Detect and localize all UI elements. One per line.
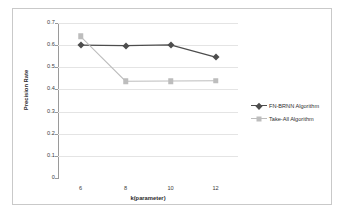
chart-figure: 00.10.20.30.40.50.60.7 681012 k(paramete… xyxy=(12,8,332,205)
data-point-marker[interactable] xyxy=(123,78,129,84)
y-tick-label: 0.7 xyxy=(29,19,55,25)
y-tick-mark xyxy=(55,89,58,90)
legend-item[interactable]: Take-All Algorithm xyxy=(251,112,339,125)
y-tick-label: 0.6 xyxy=(29,41,55,47)
y-tick-label: 0.3 xyxy=(29,108,55,114)
y-tick-mark xyxy=(55,45,58,46)
y-tick-label: 0 xyxy=(29,174,55,180)
chart-legend: FN-BRNN AlgorithmTake-All Algorithm xyxy=(251,99,339,125)
legend-marker-square-icon xyxy=(257,116,262,121)
x-tick-label: 10 xyxy=(161,185,181,191)
y-tick-mark xyxy=(55,23,58,24)
gridline xyxy=(58,67,238,68)
y-tick-label: 0.4 xyxy=(29,85,55,91)
x-tick-label: 6 xyxy=(71,185,91,191)
gridline xyxy=(58,45,238,46)
legend-item[interactable]: FN-BRNN Algorithm xyxy=(251,99,339,112)
gridline xyxy=(58,112,238,113)
data-point-marker[interactable] xyxy=(78,34,84,40)
legend-key xyxy=(251,114,267,123)
legend-label: Take-All Algorithm xyxy=(267,116,314,122)
y-tick-mark xyxy=(55,67,58,68)
y-tick-mark xyxy=(55,178,58,179)
data-point-marker[interactable] xyxy=(213,78,219,84)
x-tick-label: 12 xyxy=(206,185,226,191)
gridline xyxy=(58,134,238,135)
plot-area xyxy=(58,23,238,178)
legend-label: FN-BRNN Algorithm xyxy=(267,103,319,109)
y-tick-label: 0.5 xyxy=(29,63,55,69)
y-tick-label: 0.1 xyxy=(29,152,55,158)
y-tick-mark xyxy=(55,134,58,135)
x-axis-title: k(parameter) xyxy=(58,195,238,201)
y-axis-title: Precision Rate xyxy=(23,55,29,125)
legend-marker-diamond-icon xyxy=(256,102,262,108)
y-tick-label: 0.2 xyxy=(29,130,55,136)
y-tick-mark xyxy=(55,112,58,113)
gridline xyxy=(58,23,238,24)
x-tick-label: 8 xyxy=(116,185,136,191)
legend-key xyxy=(251,101,267,110)
data-point-marker[interactable] xyxy=(168,78,174,84)
y-tick-mark xyxy=(55,156,58,157)
gridline xyxy=(58,89,238,90)
gridline xyxy=(58,156,238,157)
